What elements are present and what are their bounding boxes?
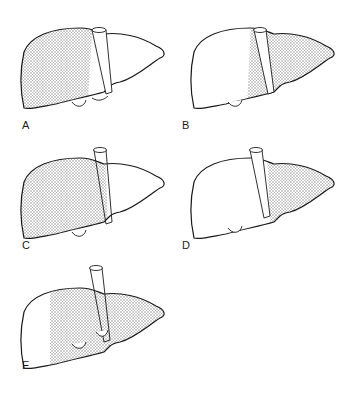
liver-diagram-d <box>170 130 338 260</box>
panel-a: A <box>0 0 170 130</box>
panel-b: B <box>170 0 338 130</box>
panel-label-d: D <box>182 240 190 251</box>
liver-diagram-b <box>170 0 338 130</box>
panel-d: D <box>170 130 338 260</box>
panel-label-c: C <box>22 240 30 251</box>
panel-label-e: E <box>22 360 29 371</box>
liver-diagram-a <box>0 0 170 130</box>
panel-c: C <box>0 130 170 260</box>
panel-e: E <box>0 260 170 390</box>
